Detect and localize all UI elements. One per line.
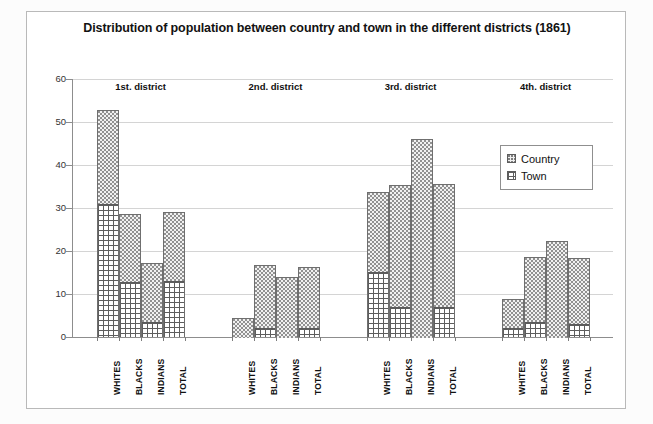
category-label-indians: INDIANS [561, 359, 571, 395]
x-axis-tick [502, 337, 503, 341]
y-axis-tick-label: 0 [38, 331, 66, 342]
y-axis-tick-label: 60 [38, 73, 66, 84]
y-axis-tick-label: 40 [38, 159, 66, 170]
category-label-total: TOTAL [178, 366, 188, 395]
x-axis-tick [568, 337, 569, 341]
bar-segment-country [434, 185, 454, 308]
x-axis-tick [119, 337, 120, 341]
bar-segment-town [390, 307, 410, 337]
bar-segment-town [434, 307, 454, 337]
bar-1st-district-total [163, 212, 185, 337]
legend-label-town: Town [521, 170, 547, 182]
category-label-indians: INDIANS [426, 359, 436, 395]
bar-1st-district-indians [141, 263, 163, 337]
plot-area [73, 79, 613, 337]
bar-segment-country [503, 300, 523, 329]
bar-segment-town [120, 282, 140, 337]
x-axis-tick [411, 337, 412, 341]
bar-3rd-district-indians [411, 139, 433, 337]
bar-3rd-district-blacks [389, 185, 411, 337]
bar-segment-country [569, 259, 589, 325]
bar-segment-town [368, 272, 388, 337]
y-axis-tick-label: 10 [38, 288, 66, 299]
category-label-blacks: BLACKS [269, 358, 279, 395]
x-axis-tick [320, 337, 321, 341]
x-axis-tick [546, 337, 547, 341]
chart-screenshot: Distribution of population between count… [0, 0, 653, 424]
bar-segment-country [255, 266, 275, 330]
x-axis-line [72, 337, 613, 338]
bar-segment-country [164, 213, 184, 282]
category-label-whites: WHITES [517, 361, 527, 395]
bar-1st-district-blacks [119, 214, 141, 337]
x-axis-tick [97, 337, 98, 341]
x-axis-tick [276, 337, 277, 341]
bar-4th-district-blacks [524, 257, 546, 337]
category-label-blacks: BLACKS [404, 358, 414, 395]
bar-segment-country [525, 258, 545, 323]
category-label-blacks: BLACKS [134, 358, 144, 395]
category-label-whites: WHITES [247, 361, 257, 395]
category-label-total: TOTAL [583, 366, 593, 395]
x-axis-tick [433, 337, 434, 341]
x-axis-tick [141, 337, 142, 341]
category-label-blacks: BLACKS [539, 358, 549, 395]
bar-segment-town [98, 204, 118, 337]
bar-segment-town [299, 328, 319, 337]
bar-segment-country [120, 215, 140, 283]
bar-segment-country [277, 278, 297, 338]
bar-segment-town [503, 328, 523, 337]
x-axis-tick [367, 337, 368, 341]
bar-segment-country [98, 111, 118, 205]
x-axis-tick [590, 337, 591, 341]
bar-segment-town [164, 281, 184, 337]
category-label-whites: WHITES [382, 361, 392, 395]
category-label-total: TOTAL [313, 366, 323, 395]
x-axis-tick [254, 337, 255, 341]
bar-segment-country [368, 193, 388, 273]
y-axis-tick-label: 30 [38, 202, 66, 213]
bar-segment-country [299, 268, 319, 329]
bar-segment-town [255, 328, 275, 337]
x-axis-tick [232, 337, 233, 341]
chart-legend: Country Town [500, 145, 593, 190]
bar-segment-country [390, 186, 410, 308]
chart-title: Distribution of population between count… [60, 20, 594, 37]
bar-segment-town [142, 322, 162, 337]
bar-2nd-district-indians [276, 277, 298, 337]
bar-segment-country [412, 140, 432, 338]
bar-segment-country [233, 319, 253, 338]
bar-4th-district-total [568, 258, 590, 337]
x-axis-tick [524, 337, 525, 341]
bar-2nd-district-blacks [254, 265, 276, 337]
brick-pattern-icon [507, 171, 516, 180]
bar-4th-district-whites [502, 299, 524, 337]
y-axis-tick-label: 20 [38, 245, 66, 256]
legend-item-country: Country [507, 150, 586, 167]
bar-2nd-district-whites [232, 318, 254, 337]
dotted-pattern-icon [507, 154, 516, 163]
bar-segment-country [142, 264, 162, 324]
category-label-indians: INDIANS [156, 359, 166, 395]
bar-segment-country [547, 242, 567, 338]
bar-segment-town [569, 324, 589, 337]
bar-3rd-district-whites [367, 192, 389, 337]
y-axis-tick-labels: 0102030405060 [30, 0, 66, 424]
legend-item-town: Town [507, 167, 586, 184]
x-axis-tick [163, 337, 164, 341]
x-axis-tick [298, 337, 299, 341]
category-label-indians: INDIANS [291, 359, 301, 395]
legend-label-country: Country [521, 153, 560, 165]
y-axis-tick-label: 50 [38, 116, 66, 127]
x-axis-tick [455, 337, 456, 341]
bar-1st-district-whites [97, 110, 119, 337]
bar-3rd-district-total [433, 184, 455, 337]
x-axis-tick [185, 337, 186, 341]
category-label-whites: WHITES [112, 361, 122, 395]
bar-segment-town [525, 322, 545, 337]
category-label-total: TOTAL [448, 366, 458, 395]
x-axis-tick [389, 337, 390, 341]
bar-4th-district-indians [546, 241, 568, 337]
bar-2nd-district-total [298, 267, 320, 337]
